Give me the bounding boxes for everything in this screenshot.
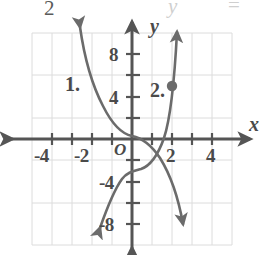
- y-tick-label-neg8: -8: [99, 214, 114, 236]
- x-tick-label-2: 2: [166, 145, 175, 167]
- origin-label: O: [114, 140, 126, 160]
- y-tick-label-8: 8: [109, 44, 118, 66]
- marked-point: [167, 81, 177, 91]
- x-axis-label: x: [249, 113, 259, 136]
- top-fragment-y: y: [168, 0, 177, 19]
- x-tick-label-4: 4: [206, 145, 215, 167]
- top-fragment-numeral: 2: [44, 0, 55, 21]
- graph-figure: 2 y = y x O 8 4 -4 -8 -4 -2 2 4 1. 2.: [0, 0, 259, 255]
- y-tick-label-neg4: -4: [99, 172, 114, 194]
- x-tick-label-neg2: -2: [74, 145, 89, 167]
- coordinate-plane: [0, 0, 259, 255]
- curve-label-2: 2.: [150, 79, 165, 102]
- top-fragment-equals: =: [228, 0, 240, 18]
- y-tick-label-4: 4: [109, 87, 118, 109]
- curve-label-1: 1.: [65, 73, 80, 96]
- x-tick-label-neg4: -4: [34, 145, 49, 167]
- y-axis-label: y: [150, 15, 159, 38]
